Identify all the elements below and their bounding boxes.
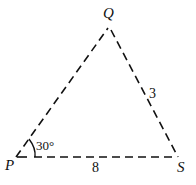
side-qs <box>111 30 178 157</box>
side-label-qs: 3 <box>149 86 156 101</box>
vertex-label-p: P <box>4 157 14 173</box>
side-pq <box>16 28 108 157</box>
side-label-ps: 8 <box>92 160 99 175</box>
vertex-label-s: S <box>177 159 185 175</box>
angle-arc-p <box>29 139 35 157</box>
vertex-label-q: Q <box>103 5 114 21</box>
triangle-diagram: Q P S 3 8 30° <box>0 0 196 185</box>
angle-label-p: 30° <box>36 138 54 153</box>
